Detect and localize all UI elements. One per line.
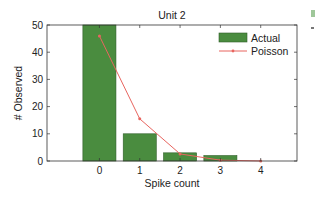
x-tick-label: 0 — [97, 165, 103, 176]
y-tick-label: 40 — [32, 47, 44, 58]
y-tick-label: 50 — [32, 20, 44, 31]
legend-marker-poisson — [232, 50, 235, 53]
bar-0 — [83, 25, 116, 161]
chart-title: Unit 2 — [158, 9, 186, 21]
poisson-marker — [98, 34, 101, 37]
poisson-marker — [138, 117, 141, 120]
line-poisson — [98, 34, 262, 162]
bar-1 — [123, 134, 156, 161]
y-tick-label: 30 — [32, 74, 44, 85]
chart: Unit 2 01020304050 01234 Spike count # O… — [0, 0, 315, 201]
legend-label-poisson: Poisson — [251, 45, 289, 57]
legend: Actual Poisson — [219, 32, 289, 58]
y-axis-label: # Observed — [12, 66, 24, 120]
y-tick-label: 20 — [32, 101, 44, 112]
x-tick-label: 3 — [218, 165, 224, 176]
x-axis-label: Spike count — [145, 177, 200, 189]
x-tick-label: 2 — [177, 165, 183, 176]
legend-swatch-actual — [219, 33, 247, 42]
y-tick-label: 10 — [32, 128, 44, 139]
legend-label-actual: Actual — [251, 32, 280, 44]
bars-actual — [83, 25, 237, 161]
poisson-marker — [179, 152, 182, 155]
x-tick-label: 1 — [137, 165, 143, 176]
clipped-edge-mark — [311, 27, 314, 29]
clipped-edge-fragment — [311, 10, 315, 17]
y-tick-label: 0 — [37, 156, 43, 167]
x-tick-label: 4 — [258, 165, 264, 176]
